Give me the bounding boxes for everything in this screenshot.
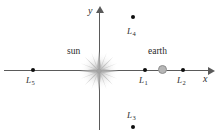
y-axis-line [99, 12, 100, 130]
lagrange-point-label-l4: L4 [127, 27, 135, 36]
lagrange-points-figure: x y [0, 0, 217, 138]
lagrange-subscript: 1 [144, 79, 147, 86]
lagrange-point-marker [143, 68, 147, 72]
x-axis-arrow-icon [208, 67, 215, 75]
sun-label: sun [67, 47, 80, 57]
lagrange-point-label-l3: L3 [127, 111, 135, 120]
lagrange-point-marker [31, 68, 35, 72]
earth-disc-icon [158, 65, 167, 74]
lagrange-point-label-l1: L1 [139, 76, 147, 85]
lagrange-point-marker [131, 15, 135, 19]
lagrange-point-marker [181, 68, 185, 72]
lagrange-point-label-l2: L2 [177, 76, 185, 85]
y-axis-label: y [88, 6, 92, 16]
lagrange-subscript: 5 [31, 79, 34, 86]
y-axis-arrow-icon [96, 6, 104, 13]
lagrange-subscript: 2 [182, 79, 185, 86]
lagrange-point-label-l5: L5 [26, 76, 34, 85]
lagrange-subscript: 3 [132, 114, 135, 121]
lagrange-point-marker [131, 125, 135, 129]
earth-label: earth [148, 47, 167, 57]
x-axis-label: x [203, 74, 207, 84]
lagrange-subscript: 4 [132, 30, 135, 37]
